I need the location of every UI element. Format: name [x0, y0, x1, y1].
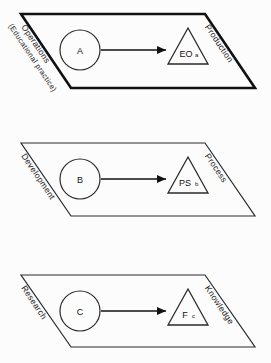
panel-left-label-group: Development [19, 152, 57, 202]
panel-right-label: Knowledge [203, 284, 236, 327]
panel-right-label-group: Production [203, 23, 236, 65]
flow-arrow-head [157, 307, 166, 315]
panel-production-level: Operations (Educational practice) Produc… [6, 14, 255, 94]
panel-left-label-group: Research [19, 284, 49, 322]
panel-right-label-group: Knowledge [203, 284, 236, 327]
source-node-label: C [77, 307, 84, 317]
source-node-label: A [77, 46, 83, 56]
panel-left-label-line1: Research [19, 284, 49, 322]
target-node-triangle [168, 289, 208, 325]
target-node-label: PS [179, 178, 191, 188]
flow-arrow-head [157, 46, 166, 54]
diagram-canvas: Operations (Educational practice) Produc… [0, 0, 271, 363]
panel-left-label-line1: Development [19, 152, 57, 202]
panel-knowledge-level: Research Knowledge C F c [19, 275, 255, 347]
flow-arrow-head [157, 175, 166, 183]
panel-right-label: Process [203, 152, 230, 185]
panel-right-label: Production [203, 23, 236, 65]
target-node-label: EO [179, 49, 192, 59]
target-node-sublabel: c [192, 313, 195, 319]
target-node-sublabel: b [195, 181, 199, 187]
panel-right-label-group: Process [203, 152, 230, 185]
target-node-sublabel: a [195, 52, 199, 58]
panel-left-label-group: Operations (Educational practice) [6, 16, 67, 94]
source-node-label: B [77, 175, 83, 185]
target-node-label: F [182, 310, 188, 320]
panel-process-level: Development Process B PS b [19, 143, 255, 216]
